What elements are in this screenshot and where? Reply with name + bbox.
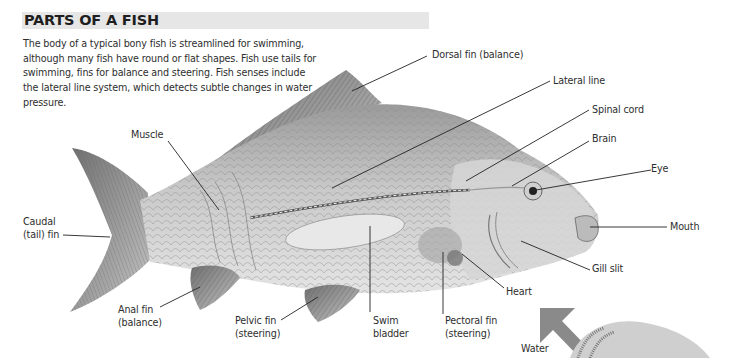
label-caudal-fin-line1: Caudal — [23, 216, 59, 229]
label-pelvic-fin-line2: (steering) — [235, 328, 280, 341]
label-water: Water — [521, 343, 549, 356]
label-brain: Brain — [592, 133, 616, 146]
caudal-fin — [70, 148, 150, 312]
label-swim-bladder-line1: Swim — [373, 315, 409, 328]
label-lateral-line: Lateral line — [553, 75, 605, 88]
label-caudal-fin-line2: (tail) fin — [23, 229, 59, 242]
label-eye: Eye — [651, 163, 668, 176]
label-swim-bladder: Swim bladder — [373, 315, 409, 340]
label-pectoral-fin-line2: (steering) — [445, 328, 497, 341]
label-anal-fin-line1: Anal fin — [118, 304, 162, 317]
label-muscle: Muscle — [131, 129, 163, 142]
label-anal-fin-line2: (balance) — [118, 317, 162, 330]
label-heart: Heart — [506, 286, 532, 299]
label-dorsal-fin: Dorsal fin (balance) — [432, 49, 523, 62]
label-pelvic-fin-line1: Pelvic fin — [235, 315, 280, 328]
fish-illustration — [0, 0, 730, 358]
water-inset — [540, 308, 710, 358]
label-pectoral-fin: Pectoral fin (steering) — [445, 315, 497, 340]
label-swim-bladder-line2: bladder — [373, 328, 409, 341]
fish-body — [140, 104, 598, 293]
label-spinal-cord: Spinal cord — [592, 104, 644, 117]
label-anal-fin: Anal fin (balance) — [118, 304, 162, 329]
label-gill-slit: Gill slit — [592, 263, 623, 276]
label-mouth: Mouth — [670, 221, 699, 234]
label-pectoral-fin-line1: Pectoral fin — [445, 315, 497, 328]
label-caudal-fin: Caudal (tail) fin — [23, 216, 59, 241]
label-pelvic-fin: Pelvic fin (steering) — [235, 315, 280, 340]
pelvic-fin — [305, 285, 360, 322]
